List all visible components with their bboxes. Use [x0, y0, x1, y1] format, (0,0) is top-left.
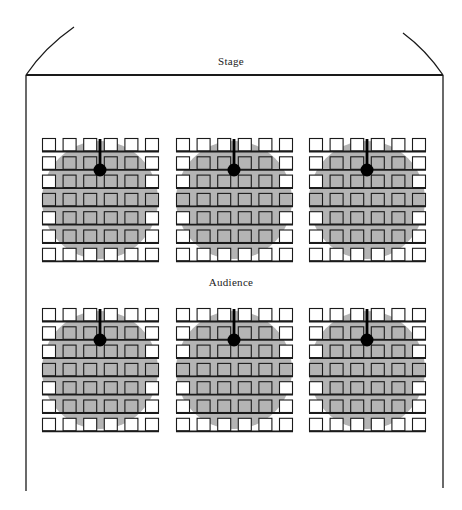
seat-icon — [413, 230, 426, 243]
seat-icon — [238, 418, 251, 431]
seat-icon — [413, 139, 426, 152]
seat-icon — [43, 248, 56, 260]
seat-icon — [218, 248, 231, 260]
seat-icon — [43, 230, 56, 243]
seat-icon — [146, 175, 159, 188]
seat-icon — [63, 309, 76, 322]
speaker-icon — [228, 164, 241, 177]
seat-icon — [310, 212, 323, 225]
seat-icon — [310, 157, 323, 170]
seat-icon — [310, 139, 323, 152]
stage-label: Stage — [218, 55, 244, 67]
seat-icon — [177, 382, 190, 395]
seat-icon — [146, 382, 159, 395]
seat-icon — [238, 139, 251, 152]
seat-icon — [371, 418, 384, 431]
seat-icon — [413, 157, 426, 170]
seat-icon — [146, 400, 159, 413]
seat-icon — [43, 327, 56, 340]
seat-icon — [392, 418, 405, 431]
stage-right-wing — [403, 33, 443, 75]
seat-icon — [310, 418, 323, 431]
seat-icon — [351, 309, 364, 322]
seat-icon — [43, 175, 56, 188]
speaker-icon — [228, 334, 241, 347]
seat-icon — [310, 175, 323, 188]
seat-icon — [43, 212, 56, 225]
seat-icon — [43, 400, 56, 413]
seat-icon — [177, 418, 190, 431]
seat-icon — [146, 230, 159, 243]
seat-icon — [43, 345, 56, 358]
seat-icon — [280, 345, 293, 358]
seat-icon — [351, 418, 364, 431]
seat-icon — [218, 418, 231, 431]
seat-icon — [43, 418, 56, 431]
speaker-icon — [94, 164, 107, 177]
seat-icon — [125, 309, 138, 322]
seat-icon — [43, 382, 56, 395]
seat-icon — [146, 418, 159, 431]
seat-icon — [177, 157, 190, 170]
seat-icon — [146, 345, 159, 358]
seat-icon — [371, 248, 384, 260]
speaker-icon — [361, 334, 374, 347]
seating-block-bottom-left — [42, 308, 160, 434]
seating-block-top-center — [176, 138, 294, 264]
seat-icon — [43, 309, 56, 322]
seat-icon — [238, 248, 251, 260]
seat-icon — [104, 309, 117, 322]
seat-icon — [104, 248, 117, 260]
seat-icon — [84, 248, 97, 260]
seat-icon — [177, 327, 190, 340]
seat-icon — [104, 418, 117, 431]
seat-icon — [392, 248, 405, 260]
seat-icon — [84, 139, 97, 152]
seat-icon — [413, 382, 426, 395]
seat-icon — [413, 345, 426, 358]
audience-label: Audience — [209, 276, 254, 288]
seat-icon — [351, 139, 364, 152]
seat-icon — [84, 309, 97, 322]
seat-icon — [125, 418, 138, 431]
seat-icon — [280, 139, 293, 152]
seat-icon — [63, 248, 76, 260]
seat-icon — [259, 139, 272, 152]
seat-icon — [392, 309, 405, 322]
seat-icon — [371, 139, 384, 152]
seat-icon — [177, 248, 190, 260]
seat-icon — [310, 400, 323, 413]
seat-icon — [392, 139, 405, 152]
seat-icon — [177, 139, 190, 152]
seat-icon — [43, 157, 56, 170]
seat-icon — [177, 345, 190, 358]
seat-icon — [197, 139, 210, 152]
seat-icon — [177, 230, 190, 243]
seat-icon — [125, 248, 138, 260]
seat-icon — [146, 248, 159, 260]
seat-icon — [177, 175, 190, 188]
seat-icon — [371, 309, 384, 322]
stage-left-wing — [26, 27, 74, 75]
seat-icon — [146, 157, 159, 170]
seat-icon — [259, 418, 272, 431]
seat-icon — [310, 327, 323, 340]
seat-icon — [280, 248, 293, 260]
seating-block-top-left — [42, 138, 160, 264]
seat-icon — [177, 212, 190, 225]
seat-icon — [280, 309, 293, 322]
seating-block-bottom-right — [309, 308, 427, 434]
seat-icon — [280, 157, 293, 170]
seat-icon — [310, 309, 323, 322]
seat-icon — [413, 248, 426, 260]
seat-icon — [330, 248, 343, 260]
seat-icon — [330, 418, 343, 431]
seat-icon — [43, 139, 56, 152]
seat-icon — [125, 139, 138, 152]
seat-icon — [238, 309, 251, 322]
seat-icon — [197, 418, 210, 431]
seat-icon — [310, 345, 323, 358]
seat-icon — [146, 309, 159, 322]
seat-icon — [280, 230, 293, 243]
seat-icon — [310, 382, 323, 395]
